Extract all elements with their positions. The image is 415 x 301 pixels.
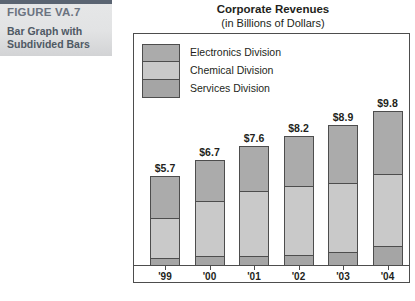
bar-segment-chemical[interactable] [196, 201, 224, 258]
bar-group[interactable]: $5.7 [150, 176, 180, 266]
bar-segment-services[interactable] [329, 253, 357, 265]
x-axis-tick [254, 266, 255, 270]
chart-title: Corporate Revenues [131, 3, 415, 15]
figure-number: FIGURE VA.7 [7, 6, 81, 18]
legend-swatch [142, 62, 180, 80]
bar-segment-electronics[interactable] [329, 126, 357, 183]
legend-label: Electronics Division [190, 46, 281, 58]
bar-segment-chemical[interactable] [151, 218, 179, 259]
figure-banner-rule [0, 0, 112, 4]
legend-swatch [142, 80, 180, 98]
stacked-bar[interactable] [150, 176, 180, 266]
bar-segment-electronics[interactable] [285, 137, 313, 186]
bar-group[interactable]: $7.6 [239, 146, 269, 266]
bar-segment-chemical[interactable] [329, 183, 357, 253]
stacked-bar[interactable] [195, 160, 225, 266]
chart-legend: Electronics DivisionChemical DivisionSer… [142, 44, 312, 98]
bar-group[interactable]: $8.2 [284, 136, 314, 266]
stacked-bar[interactable] [328, 125, 358, 266]
bar-segment-services[interactable] [374, 247, 402, 265]
bar-segment-electronics[interactable] [374, 112, 402, 174]
bar-group[interactable]: $8.9 [328, 125, 358, 266]
legend-item: Services Division [142, 80, 312, 98]
bar-segment-services[interactable] [151, 259, 179, 265]
figure-banner: FIGURE VA.7 Bar Graph with Subdivided Ba… [0, 0, 112, 56]
bar-segment-chemical[interactable] [240, 191, 268, 257]
x-axis-tick [210, 266, 211, 270]
bar-segment-electronics[interactable] [196, 161, 224, 201]
legend-label: Services Division [190, 82, 270, 94]
bar-value-label: $5.7 [140, 162, 190, 174]
bar-segment-services[interactable] [196, 257, 224, 265]
figure-caption: Bar Graph with Subdivided Bars [7, 25, 111, 51]
bar-segment-chemical[interactable] [285, 186, 313, 255]
legend-swatch [142, 44, 180, 62]
bar-segment-services[interactable] [240, 257, 268, 265]
stacked-bar[interactable] [373, 111, 403, 266]
x-axis-tick [343, 266, 344, 270]
x-axis-label: '04 [359, 271, 415, 282]
bar-segment-services[interactable] [285, 256, 313, 265]
chart-subtitle: (in Billions of Dollars) [131, 17, 415, 29]
stacked-bar[interactable] [239, 146, 269, 266]
bar-value-label: $6.7 [185, 146, 235, 158]
stacked-bar[interactable] [284, 136, 314, 266]
bar-value-label: $8.9 [318, 111, 368, 123]
bar-segment-electronics[interactable] [240, 147, 268, 191]
x-axis-tick [165, 266, 166, 270]
bar-group[interactable]: $9.8 [373, 111, 403, 266]
bar-segment-chemical[interactable] [374, 174, 402, 247]
x-axis-tick [299, 266, 300, 270]
bar-value-label: $7.6 [229, 132, 279, 144]
legend-item: Electronics Division [142, 44, 312, 62]
legend-label: Chemical Division [190, 64, 273, 76]
bar-value-label: $8.2 [274, 122, 324, 134]
legend-item: Chemical Division [142, 62, 312, 80]
bar-segment-electronics[interactable] [151, 177, 179, 218]
bar-group[interactable]: $6.7 [195, 160, 225, 266]
bar-value-label: $9.8 [363, 97, 413, 109]
x-axis-tick [388, 266, 389, 270]
